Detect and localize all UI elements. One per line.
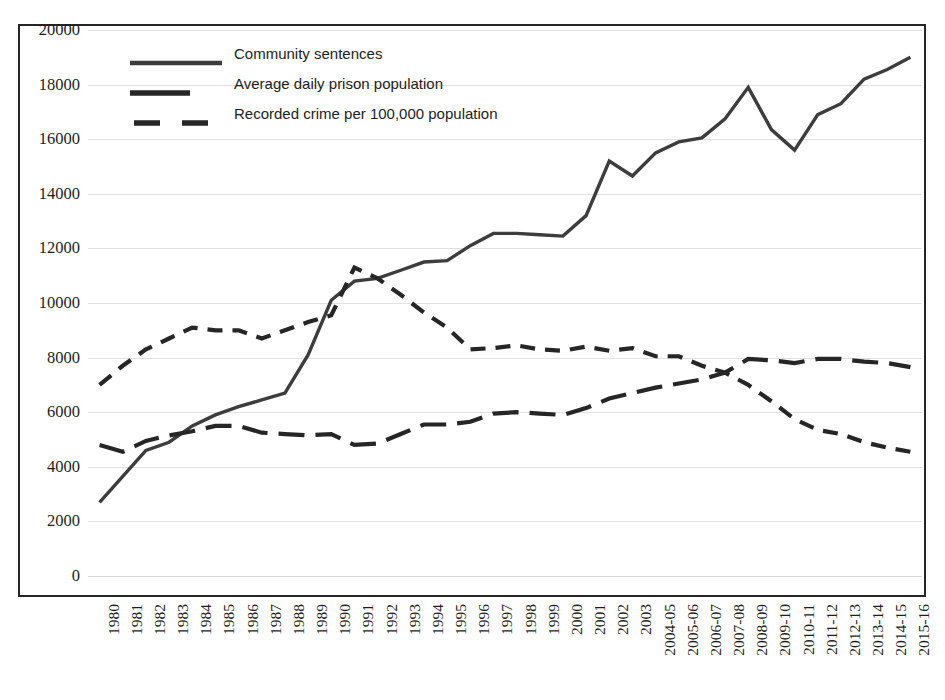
- x-axis-tick-label: 1992: [384, 604, 400, 635]
- legend-item: Recorded crime per 100,000 population: [130, 100, 530, 130]
- legend-key-dash-long: [130, 82, 222, 87]
- legend-item: Community sentences: [130, 40, 530, 70]
- x-axis-tick-label: 1994: [430, 604, 446, 635]
- x-axis-tick-label: 1995: [453, 604, 469, 635]
- x-axis-tick-label: 1989: [314, 604, 330, 635]
- y-axis-labels: 2000018000160001400012000100008000600040…: [0, 30, 80, 576]
- gridline: [88, 576, 922, 577]
- x-axis-tick-label: 2006-07: [708, 604, 724, 656]
- chart-container: 2000018000160001400012000100008000600040…: [0, 0, 945, 700]
- legend-key-dash-short: [130, 112, 222, 117]
- x-axis-tick-label: 1981: [129, 604, 145, 635]
- x-axis-tick-label: 2008-09: [754, 604, 770, 656]
- legend-label: Community sentences: [234, 40, 382, 68]
- x-axis-tick-label: 2005-06: [685, 604, 701, 656]
- y-axis-tick-label: 14000: [39, 186, 80, 203]
- x-axis-tick-label: 1980: [106, 604, 122, 635]
- x-axis-tick-label: 1993: [407, 604, 423, 635]
- legend-label: Recorded crime per 100,000 population: [234, 100, 498, 128]
- x-axis-tick-label: 2004-05: [662, 604, 678, 656]
- x-axis-tick-label: 2007-08: [731, 604, 747, 656]
- x-axis-tick-label: 2011-12: [824, 604, 840, 655]
- x-axis-tick-label: 2015-16: [916, 604, 932, 656]
- x-axis-tick-label: 2013-14: [870, 604, 886, 656]
- y-axis-tick-label: 0: [72, 568, 80, 585]
- chart-legend: Community sentences Average daily prison…: [130, 40, 530, 130]
- x-axis-tick-label: 1983: [175, 604, 191, 635]
- x-axis-tick-label: 2014-15: [893, 604, 909, 656]
- y-axis-tick-label: 16000: [39, 131, 80, 148]
- y-axis-tick-label: 4000: [47, 459, 80, 476]
- x-axis-tick-label: 1990: [337, 604, 353, 635]
- x-axis-tick-label: 1984: [198, 604, 214, 635]
- y-axis-tick-label: 18000: [39, 76, 80, 93]
- x-axis-tick-label: 1991: [360, 604, 376, 635]
- y-axis-tick-label: 6000: [47, 404, 80, 421]
- x-axis-tick-label: 1988: [291, 604, 307, 635]
- y-axis-tick-label: 2000: [47, 513, 80, 530]
- x-axis-tick-label: 1985: [221, 604, 237, 635]
- legend-label: Average daily prison population: [234, 70, 443, 98]
- x-axis-tick-label: 1982: [152, 604, 168, 635]
- x-axis-tick-label: 2012-13: [847, 604, 863, 656]
- legend-key-solid: [130, 52, 222, 57]
- x-axis-tick-label: 2000: [569, 604, 585, 635]
- y-axis-tick-label: 8000: [47, 349, 80, 366]
- x-axis-tick-label: 1997: [499, 604, 515, 635]
- x-axis-tick-label: 2001: [592, 604, 608, 635]
- x-axis-tick-label: 2002: [615, 604, 631, 635]
- x-axis-tick-label: 1999: [546, 604, 562, 635]
- x-axis-tick-label: 2009-10: [777, 604, 793, 656]
- y-axis-tick-label: 10000: [39, 295, 80, 312]
- y-axis-tick-label: 20000: [39, 22, 80, 39]
- series-line: [100, 359, 911, 452]
- legend-item: Average daily prison population: [130, 70, 530, 100]
- y-axis-tick-label: 12000: [39, 240, 80, 257]
- x-axis-tick-label: 1998: [523, 604, 539, 635]
- x-axis-tick-label: 1987: [268, 604, 284, 635]
- x-axis-tick-label: 1996: [476, 604, 492, 635]
- x-axis-tick-label: 2003: [638, 604, 654, 635]
- x-axis-labels: 1980198119821983198419851986198719881989…: [88, 604, 922, 696]
- x-axis-tick-label: 2010-11: [801, 604, 817, 655]
- x-axis-tick-label: 1986: [245, 604, 261, 635]
